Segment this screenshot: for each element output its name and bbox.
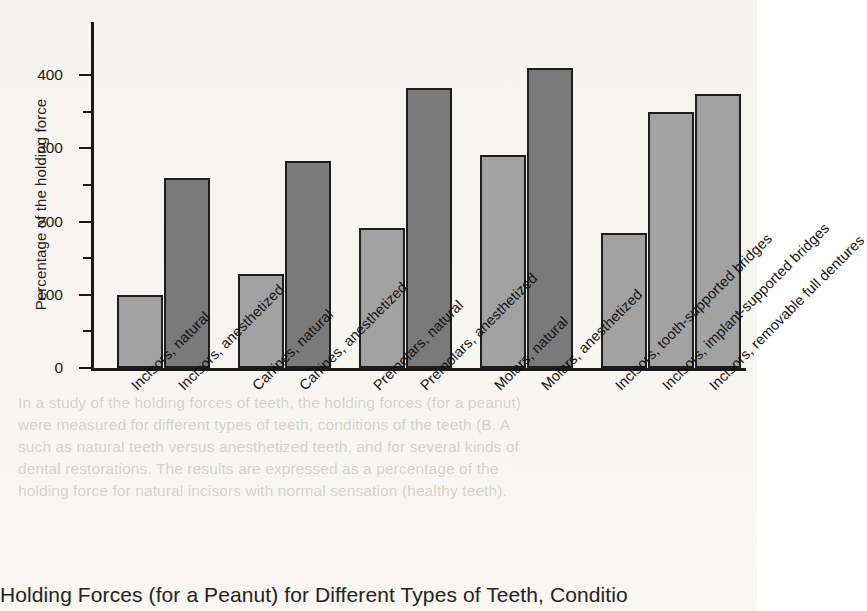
- y-tick-major: 100: [79, 294, 91, 296]
- y-tick-label: 300: [37, 139, 63, 157]
- y-tick-label: 0: [54, 359, 63, 377]
- y-axis-line: [91, 22, 94, 371]
- y-tick-major: 200: [79, 221, 91, 223]
- y-tick-major: 0: [79, 367, 91, 369]
- y-tick-label: 400: [37, 66, 63, 84]
- bar: [480, 155, 526, 368]
- y-tick-minor: [83, 330, 91, 332]
- plot-area: 0100200300400: [91, 22, 746, 370]
- y-axis-title: Percentage of the holding force: [32, 45, 49, 365]
- y-tick-minor: [83, 257, 91, 259]
- y-tick-label: 100: [37, 286, 63, 304]
- y-tick-minor: [83, 184, 91, 186]
- y-tick-label: 200: [37, 213, 63, 231]
- figure-caption: Holding Forces (for a Peanut) for Differ…: [0, 583, 757, 607]
- y-tick-major: 300: [79, 147, 91, 149]
- y-tick-minor: [83, 111, 91, 113]
- y-tick-major: 400: [79, 74, 91, 76]
